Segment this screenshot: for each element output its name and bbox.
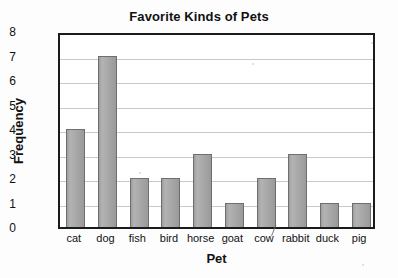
bar-cow — [257, 178, 276, 227]
scan-speck — [139, 172, 141, 174]
x-tick-label-bird: bird — [153, 232, 185, 245]
bar-fish — [130, 178, 149, 227]
bar-cat — [66, 129, 85, 227]
scan-speck — [371, 42, 373, 44]
bar-rabbit — [288, 154, 307, 228]
y-tick-label: 4 — [0, 124, 16, 136]
bar-bird — [161, 178, 180, 227]
x-tick-label-horse: horse — [185, 232, 217, 245]
bar-dog — [98, 56, 117, 228]
x-tick-label-duck: duck — [312, 232, 344, 245]
x-tick-label-cow: cow — [248, 232, 280, 245]
y-tick-label: 6 — [0, 75, 16, 87]
y-tick-label: 7 — [0, 51, 16, 63]
x-tick-label-pig: pig — [343, 232, 375, 245]
y-tick-label: 0 — [0, 222, 16, 234]
bar-duck — [320, 203, 339, 228]
y-tick-label: 3 — [0, 149, 16, 161]
bar-pig — [352, 203, 371, 228]
x-tick-label-fish: fish — [121, 232, 153, 245]
y-tick-label: 1 — [0, 198, 16, 210]
scan-speck — [252, 63, 254, 65]
y-tick-label: 8 — [0, 26, 16, 38]
bar-goat — [225, 203, 244, 228]
bar-chart-figure: Favorite Kinds of Pets Frequency 8765432… — [0, 0, 398, 278]
scan-speck — [362, 264, 364, 266]
x-tick-label-cat: cat — [58, 232, 90, 245]
plot-area — [58, 33, 375, 229]
x-axis-title: Pet — [58, 251, 375, 266]
y-tick-label: 2 — [0, 173, 16, 185]
x-tick-label-goat: goat — [217, 232, 249, 245]
y-tick-label: 5 — [0, 100, 16, 112]
x-tick-label-dog: dog — [90, 232, 122, 245]
chart-title: Favorite Kinds of Pets — [0, 9, 398, 24]
bar-horse — [193, 154, 212, 228]
x-tick-label-rabbit: rabbit — [280, 232, 312, 245]
